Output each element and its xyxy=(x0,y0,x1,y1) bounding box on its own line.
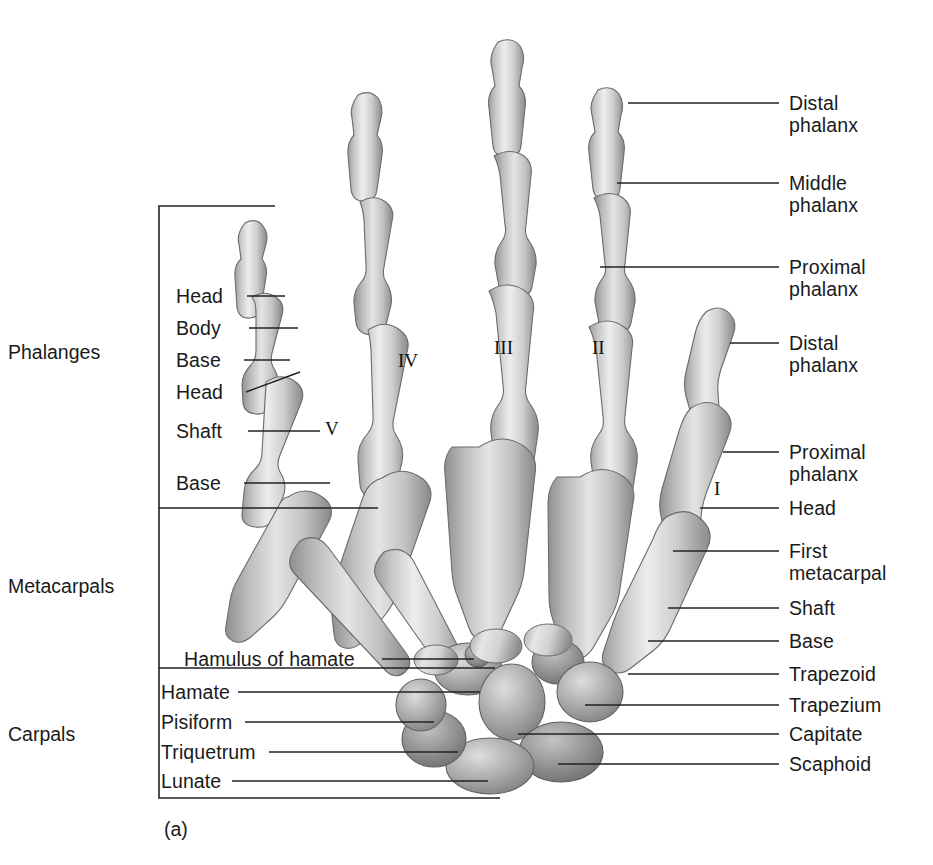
label-capitate: Capitate xyxy=(789,723,862,745)
digit-numeral-2: II xyxy=(592,337,605,359)
label-scaphoid: Scaphoid xyxy=(789,753,871,775)
label-hamate: Hamate xyxy=(161,681,230,703)
metacarpal-base-3 xyxy=(470,629,522,663)
digit-numeral-1: I xyxy=(714,478,720,500)
digit-5-bones xyxy=(222,221,331,674)
label-pisiform: Pisiform xyxy=(161,711,232,733)
label-lunate: Lunate xyxy=(161,770,221,792)
metacarpal-base-2 xyxy=(524,624,572,656)
label-base-metacarpal-5: Base xyxy=(176,472,221,494)
figure-container: Phalanges Metacarpals Carpals Head Body … xyxy=(0,0,933,865)
label-distal-phalanx-3: Distal phalanx xyxy=(789,92,858,136)
label-base-metacarpal-1: Base xyxy=(789,630,834,652)
label-first-metacarpal: First metacarpal xyxy=(789,540,886,584)
group-label-metacarpals: Metacarpals xyxy=(8,575,114,598)
digit-numeral-4: IV xyxy=(398,350,418,372)
metacarpal-base-4 xyxy=(414,645,458,675)
pisiform-bone xyxy=(396,679,446,731)
digit-2-bones xyxy=(548,88,637,659)
label-proximal-phalanx-3: Proximal phalanx xyxy=(789,256,866,300)
label-middle-phalanx-3: Middle phalanx xyxy=(789,172,858,216)
label-hamulus-of-hamate: Hamulus of hamate xyxy=(184,648,355,670)
label-body-distal: Body xyxy=(176,317,221,339)
figure-caption: (a) xyxy=(164,818,188,841)
label-triquetrum: Triquetrum xyxy=(161,741,256,763)
label-distal-phalanx-1: Distal phalanx xyxy=(789,332,858,376)
label-proximal-phalanx-1: Proximal phalanx xyxy=(789,441,866,485)
label-head-metacarpal-1: Head xyxy=(789,497,836,519)
label-shaft-metacarpal-1: Shaft xyxy=(789,597,835,619)
label-trapezium: Trapezium xyxy=(789,694,881,716)
label-base-distal: Base xyxy=(176,349,221,371)
group-label-phalanges: Phalanges xyxy=(8,341,100,364)
digit-numeral-3: III xyxy=(494,337,513,359)
label-head-metacarpal-5: Head xyxy=(176,381,223,403)
trapezium-bone xyxy=(557,662,623,722)
label-shaft-metacarpal-5: Shaft xyxy=(176,420,222,442)
group-label-carpals: Carpals xyxy=(8,723,75,746)
digit-3-bones xyxy=(445,40,539,640)
digit-numeral-5: V xyxy=(325,418,339,440)
label-head-distal: Head xyxy=(176,285,223,307)
label-trapezoid: Trapezoid xyxy=(789,663,876,685)
